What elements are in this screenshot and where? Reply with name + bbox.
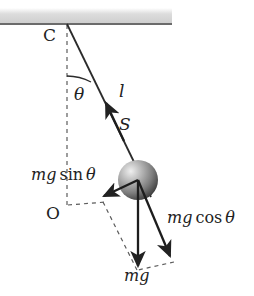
mg-cos-theta-label: mgcosθ bbox=[167, 210, 235, 226]
mg-cos-theta-label-theta: θ bbox=[225, 208, 235, 227]
diagram-canvas bbox=[0, 0, 254, 296]
string-length-label: l bbox=[119, 83, 124, 100]
mg-sin-theta-label-mg: mg bbox=[31, 165, 56, 184]
mg-cos-theta-label-mg: mg bbox=[167, 208, 192, 227]
dashed-horizontal-to-sin-tip bbox=[68, 202, 106, 205]
weight-label: mg bbox=[124, 268, 149, 284]
mg-sin-theta-label-theta: θ bbox=[86, 165, 96, 184]
ceiling bbox=[0, 8, 172, 24]
angle-theta-label: θ bbox=[74, 86, 84, 103]
angle-arc bbox=[67, 76, 91, 82]
pivot-label: C bbox=[43, 27, 56, 44]
mg-sin-theta-label-sin: sin bbox=[59, 165, 83, 184]
pendulum-figure: C O θ l S mgsinθ mgcosθ mg bbox=[0, 0, 254, 296]
mg-cos-theta-label-cos: cos bbox=[195, 208, 222, 227]
mg-sin-theta-label: mgsinθ bbox=[31, 167, 96, 183]
origin-label: O bbox=[46, 205, 60, 222]
dashed-sin-side bbox=[103, 202, 137, 270]
tension-label: S bbox=[119, 116, 131, 133]
